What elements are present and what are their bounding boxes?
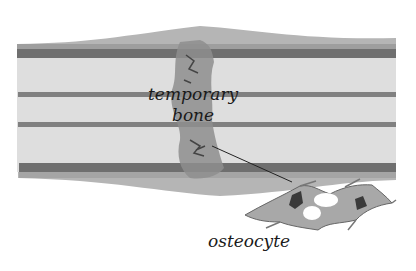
label-temporary: temporary	[148, 86, 238, 103]
label-osteocyte: osteocyte	[208, 233, 290, 250]
osteocyte-vacuole-1	[314, 193, 338, 207]
label-bone: bone	[172, 107, 214, 124]
osteocyte-vacuole-2	[303, 206, 321, 220]
